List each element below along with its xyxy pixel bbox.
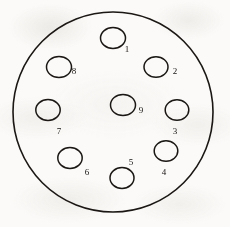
pin-hole-3 bbox=[165, 100, 189, 120]
pin-number-label-4: 4 bbox=[162, 167, 167, 177]
pin-number-label-2: 2 bbox=[173, 66, 178, 76]
pin-hole-1 bbox=[101, 28, 126, 49]
pin-number-label-1: 1 bbox=[125, 44, 130, 54]
pin-hole-4 bbox=[154, 141, 178, 161]
pin-number-label-5: 5 bbox=[129, 157, 134, 167]
pin-number-label-9: 9 bbox=[139, 105, 144, 115]
pin-number-label-3: 3 bbox=[173, 126, 178, 136]
pin-hole-5 bbox=[110, 168, 134, 189]
connector-pin-layout-drawing: 123456789 bbox=[0, 0, 230, 227]
pin-hole-8 bbox=[47, 56, 72, 77]
pin-hole-2 bbox=[144, 57, 168, 77]
pin-hole-7 bbox=[36, 100, 60, 121]
pin-label-group: 123456789 bbox=[57, 44, 178, 177]
pin-hole-group bbox=[36, 28, 189, 189]
pin-hole-9 bbox=[111, 94, 136, 115]
connector-diagram: 123456789 bbox=[0, 0, 230, 227]
pin-number-label-7: 7 bbox=[57, 126, 62, 136]
pin-hole-6 bbox=[58, 148, 82, 169]
pin-number-label-6: 6 bbox=[85, 167, 90, 177]
pin-number-label-8: 8 bbox=[72, 66, 77, 76]
